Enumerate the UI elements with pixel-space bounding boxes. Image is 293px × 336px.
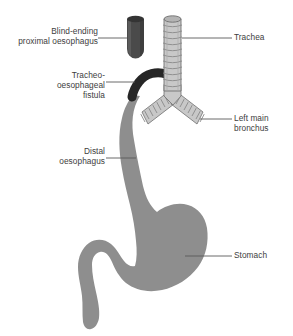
fistula-shape xyxy=(132,73,166,97)
trachea-top-rim xyxy=(164,16,181,22)
label-distal-oesophagus: Distal oesophagus xyxy=(33,146,105,166)
label-tracheo-oesophageal-fistula: Tracheo- oesophageal fistula xyxy=(28,70,105,101)
anatomy-diagram: Blind-ending proximal oesophagus Tracheo… xyxy=(0,0,293,336)
label-left-main-bronchus: Left main bronchus xyxy=(234,113,293,133)
pouch-top-rim xyxy=(127,16,144,22)
label-stomach: Stomach xyxy=(234,250,291,260)
trachea-group xyxy=(163,16,182,91)
tracheo-oesophageal-fistula-group xyxy=(132,73,166,97)
anatomy-figure-svg xyxy=(0,0,293,336)
stomach-and-distal-oesophagus-group xyxy=(78,95,208,329)
blind-ending-pouch-group xyxy=(127,16,145,61)
label-blind-ending-proximal-oesophagus: Blind-ending proximal oesophagus xyxy=(4,26,98,46)
label-trachea: Trachea xyxy=(234,32,292,42)
stomach-shape xyxy=(78,95,208,329)
bronchi-group xyxy=(138,86,207,124)
